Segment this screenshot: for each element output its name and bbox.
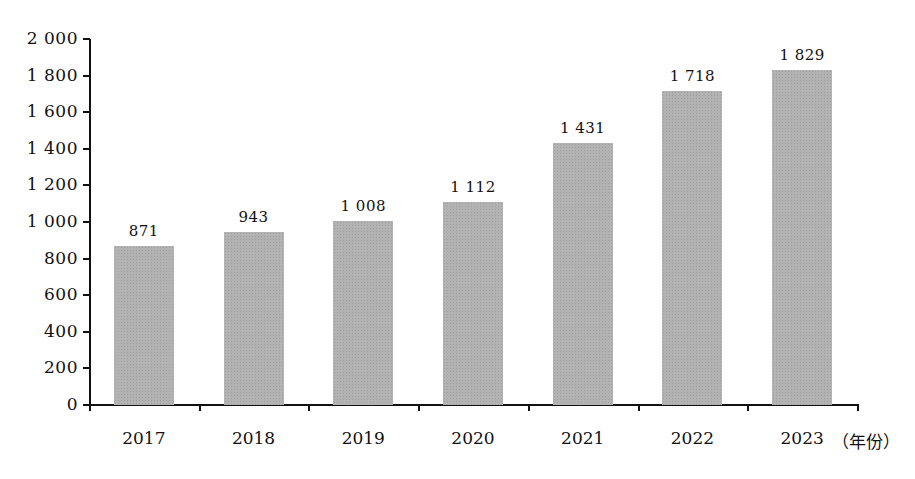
y-tick-mark — [83, 221, 90, 223]
x-tick-label: 2017 — [104, 428, 184, 448]
y-tick-label: 600 — [4, 284, 78, 304]
y-tick-mark — [83, 184, 90, 186]
x-tick-mark — [747, 405, 749, 411]
y-tick-mark — [83, 111, 90, 113]
y-tick-label: 1 800 — [4, 65, 78, 85]
bar-value-label: 1 431 — [538, 119, 628, 137]
bar-2017 — [114, 246, 174, 405]
y-tick-label: 1 000 — [4, 211, 78, 231]
y-tick-label: 0 — [4, 394, 78, 414]
x-tick-label: 2022 — [652, 428, 732, 448]
x-tick-label: 2020 — [433, 428, 513, 448]
bar-value-label: 871 — [99, 222, 189, 240]
bar-value-label: 1 829 — [757, 46, 847, 64]
x-tick-mark — [638, 405, 640, 411]
y-tick-mark — [83, 148, 90, 150]
bar-value-label: 1 718 — [647, 67, 737, 85]
bar-2023 — [772, 70, 832, 405]
x-tick-label: 2023 — [762, 428, 842, 448]
bar-2020 — [443, 202, 503, 405]
y-tick-label: 1 200 — [4, 174, 78, 194]
x-tick-label: 2018 — [214, 428, 294, 448]
y-tick-label: 200 — [4, 357, 78, 377]
bar-2019 — [333, 221, 393, 405]
y-tick-mark — [83, 258, 90, 260]
y-tick-mark — [83, 294, 90, 296]
y-tick-mark — [83, 367, 90, 369]
bar-2018 — [224, 232, 284, 405]
y-tick-label: 800 — [4, 248, 78, 268]
bar-value-label: 1 008 — [318, 197, 408, 215]
x-tick-mark — [89, 405, 91, 411]
x-axis-unit-label: （年份） — [832, 428, 900, 453]
bar-2021 — [553, 143, 613, 405]
x-tick-label: 2019 — [323, 428, 403, 448]
y-tick-label: 400 — [4, 321, 78, 341]
x-tick-mark — [199, 405, 201, 411]
y-tick-label: 1 600 — [4, 101, 78, 121]
bar-value-label: 943 — [209, 208, 299, 226]
y-tick-label: 2 000 — [4, 28, 78, 48]
y-tick-mark — [83, 331, 90, 333]
x-tick-label: 2021 — [543, 428, 623, 448]
y-tick-mark — [83, 38, 90, 40]
x-tick-mark — [528, 405, 530, 411]
bar-chart: 02004006008001 0001 2001 4001 6001 8002 … — [0, 0, 915, 479]
bar-value-label: 1 112 — [428, 178, 518, 196]
x-tick-mark — [857, 405, 859, 411]
x-tick-mark — [418, 405, 420, 411]
x-tick-mark — [308, 405, 310, 411]
y-tick-mark — [83, 75, 90, 77]
y-tick-label: 1 400 — [4, 138, 78, 158]
bar-2022 — [662, 91, 722, 405]
